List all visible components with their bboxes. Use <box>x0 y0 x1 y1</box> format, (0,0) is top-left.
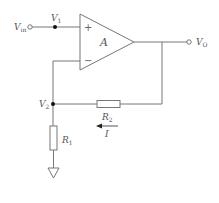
vin-terminal <box>28 25 32 29</box>
label-plus: + <box>84 22 92 33</box>
resistor-r1 <box>50 126 57 150</box>
ground-icon <box>48 168 59 178</box>
label-v1: V1 <box>51 13 61 24</box>
label-minus: − <box>84 55 92 66</box>
label-v2: V2 <box>39 99 50 110</box>
label-vo: VO <box>196 37 208 48</box>
label-r2: R2 <box>101 112 113 123</box>
label-current: I <box>104 129 109 139</box>
label-opamp-gain: A <box>99 36 108 49</box>
node-v2 <box>51 102 55 106</box>
current-arrow-icon <box>96 124 102 129</box>
label-r1: R1 <box>61 135 73 146</box>
node-v1 <box>53 25 57 29</box>
circuit-diagram: Vin V1 V2 VO A + − R1 R2 I <box>0 0 219 203</box>
resistor-r2 <box>97 101 120 108</box>
vo-terminal <box>187 40 191 44</box>
label-vin: Vin <box>14 22 26 33</box>
